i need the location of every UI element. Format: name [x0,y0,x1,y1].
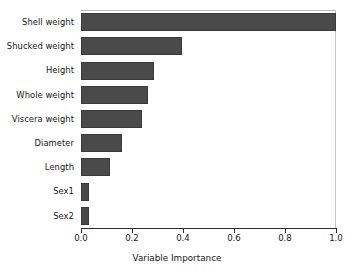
bar [81,207,89,225]
x-tick-label: 0.6 [219,234,249,243]
x-tick-label: 0.8 [270,234,300,243]
bar [81,86,148,104]
x-tick-label: 0.2 [117,234,147,243]
category-label: Whole weight [0,91,74,99]
bar [81,37,182,55]
category-label: Viscera weight [0,115,74,123]
category-label: Height [0,66,74,74]
category-axis-labels: Shell weightShucked weightHeightWhole we… [0,10,74,228]
category-label: Length [0,163,74,171]
variable-importance-chart: Shell weightShucked weightHeightWhole we… [0,0,354,275]
bar [81,134,122,152]
category-label: Sex1 [0,187,74,195]
bar [81,183,89,201]
x-axis-line [81,228,337,229]
x-tick-label: 0.4 [168,234,198,243]
x-axis-title: Variable Importance [0,254,354,263]
category-label: Shucked weight [0,42,74,50]
bar [81,13,336,31]
bar [81,62,154,80]
plot-frame-top-border [81,10,336,11]
bar [81,158,110,176]
category-label: Shell weight [0,18,74,26]
plot-frame-right-border [335,10,336,228]
bar [81,110,142,128]
category-label: Diameter [0,139,74,147]
x-tick-label: 0.0 [66,234,96,243]
plot-area [81,10,336,228]
category-label: Sex2 [0,212,74,220]
x-tick-label: 1.0 [321,234,351,243]
